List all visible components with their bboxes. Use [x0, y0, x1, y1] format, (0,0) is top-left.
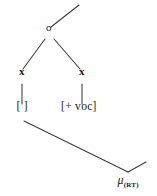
skeletal-slot-left: x — [19, 66, 25, 77]
tree-edges-layer — [0, 0, 157, 196]
mora-node: μ(RT) — [118, 174, 139, 186]
skeletal-slot-right: x — [79, 66, 85, 77]
edge-root-upward — [51, 5, 79, 27]
edge-root-to-right-x — [54, 39, 80, 69]
root-node-label: o — [46, 21, 52, 33]
feature-bundle-right-label: [+ voc] — [61, 100, 97, 112]
phonology-tree-figure: o x x [ ] [+ voc] μ(RT) — [0, 0, 157, 196]
mora-symbol: μ — [118, 173, 124, 187]
feature-bundle-left-empty: [ ] — [17, 101, 28, 113]
mora-subscript: (RT) — [124, 181, 139, 189]
feature-bundle-right-vocalic: [+ voc] — [61, 101, 97, 113]
edge-mora-upward-right — [128, 162, 146, 172]
skeletal-slot-left-label: x — [19, 65, 25, 77]
skeletal-slot-right-label: x — [79, 65, 85, 77]
edge-feature-left-to-mora — [24, 121, 128, 172]
root-node-o: o — [46, 22, 52, 33]
edge-root-to-left-x — [23, 39, 45, 69]
feature-bundle-left-label: [ ] — [17, 100, 28, 112]
